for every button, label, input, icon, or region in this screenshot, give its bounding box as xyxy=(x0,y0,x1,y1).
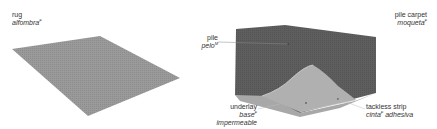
pile-carpet-es: moquetaF xyxy=(395,19,427,27)
pile-label: pile peloM xyxy=(186,34,218,50)
rug-es: alfombraF xyxy=(12,19,42,27)
tackless-strip-es: cintaF adhesiva xyxy=(366,111,413,119)
tackless-strip-label: tackless strip cintaF adhesiva xyxy=(366,103,413,119)
underlay-label: underlay baseF impermeable xyxy=(200,103,257,127)
underlay-es: baseF impermeable xyxy=(200,111,257,127)
pile-carpet-en: pile carpet xyxy=(395,11,427,19)
tackless-strip-en: tackless strip xyxy=(366,103,413,111)
rug-en: rug xyxy=(12,11,42,19)
pile-en: pile xyxy=(186,34,218,42)
rug-label: rug alfombraF xyxy=(12,11,42,27)
underlay-en: underlay xyxy=(200,103,257,111)
rug-illustration xyxy=(12,36,180,116)
pile-es: peloM xyxy=(186,42,218,50)
pile-carpet-label: pile carpet moquetaF xyxy=(395,11,427,27)
